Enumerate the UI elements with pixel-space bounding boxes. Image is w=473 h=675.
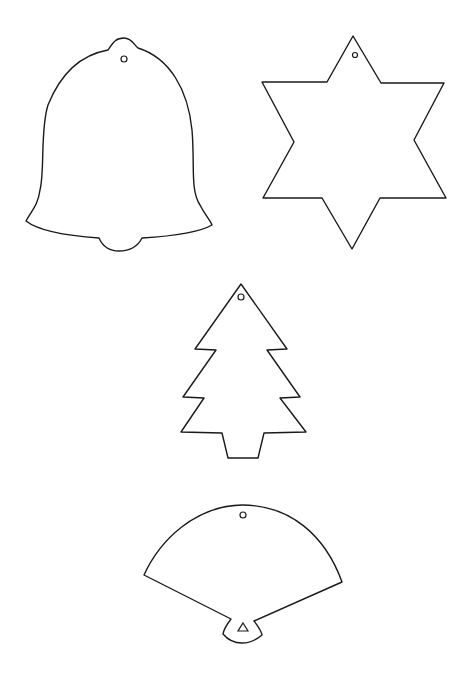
- fan-hanging-hole: [240, 512, 246, 518]
- bell-hanging-hole: [121, 56, 127, 62]
- star-icon: [262, 36, 446, 249]
- tree-hanging-hole: [238, 294, 244, 300]
- star-ornament: Six-pointed star: [262, 36, 446, 249]
- bell-ornament: Bell: [26, 38, 212, 251]
- fan-ornament: Fan: [144, 505, 342, 643]
- tree-ornament: Christmas tree: [181, 284, 306, 458]
- ornament-sheet: Bell Six-pointed star Christmas tree Fan: [0, 0, 473, 675]
- tree-icon: [181, 284, 306, 458]
- bell-icon: [26, 38, 212, 251]
- star-hanging-hole: [353, 53, 358, 58]
